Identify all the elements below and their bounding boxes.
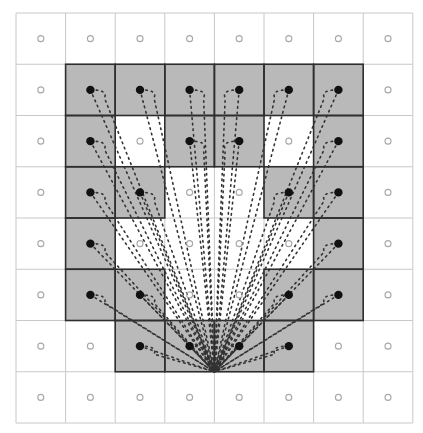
active-dot-icon [86,86,94,94]
active-dot-icon [334,86,342,94]
active-dot-icon [334,291,342,299]
active-dot-icon [86,137,94,145]
active-dot-icon [86,239,94,247]
inactive-dot-icon [187,394,193,400]
inactive-dot-icon [385,189,391,195]
inactive-dot-icon [385,292,391,298]
inactive-dot-icon [385,241,391,247]
active-dot-icon [285,86,293,94]
active-dot-icon [235,86,243,94]
inactive-dot-icon [87,36,93,42]
inactive-dot-icon [137,36,143,42]
inactive-dot-icon [38,241,44,247]
inactive-dot-icon [38,87,44,93]
inactive-dot-icon [38,292,44,298]
inactive-dot-icon [187,241,193,247]
inactive-dot-icon [137,394,143,400]
active-dot-icon [185,137,193,145]
inactive-dot-icon [385,343,391,349]
inactive-dot-icon [87,394,93,400]
inactive-dot-icon [236,241,242,247]
inactive-dot-icon [335,36,341,42]
inactive-dot-icon [137,241,143,247]
active-dot-icon [136,86,144,94]
inactive-dot-icon [286,241,292,247]
inactive-dot-icon [286,138,292,144]
active-dot-icon [285,291,293,299]
active-dot-icon [86,188,94,196]
inactive-dot-icon [187,189,193,195]
active-dot-icon [136,291,144,299]
inactive-dot-icon [385,36,391,42]
active-dot-icon [334,239,342,247]
grid-diagram [0,0,423,433]
active-dot-icon [285,188,293,196]
inactive-dot-icon [385,138,391,144]
inactive-dot-icon [286,394,292,400]
inactive-dot-icon [87,343,93,349]
inactive-dot-icon [38,138,44,144]
active-dot-icon [334,137,342,145]
active-dot-icon [235,137,243,145]
inactive-dot-icon [335,343,341,349]
inactive-dot-icon [236,394,242,400]
inactive-dot-icon [236,189,242,195]
active-dot-icon [86,291,94,299]
inactive-dot-icon [335,394,341,400]
active-dot-icon [185,86,193,94]
inactive-dot-icon [137,138,143,144]
inactive-dot-icon [187,36,193,42]
active-dot-icon [136,342,144,350]
inactive-dot-icon [38,189,44,195]
active-dot-icon [185,342,193,350]
active-dot-icon [285,342,293,350]
inactive-dot-icon [38,394,44,400]
inactive-dot-icon [38,343,44,349]
inactive-dot-icon [38,36,44,42]
active-dot-icon [235,342,243,350]
inactive-dot-icon [286,36,292,42]
inactive-dot-icon [385,87,391,93]
active-dot-icon [334,188,342,196]
inactive-dot-icon [385,394,391,400]
inactive-dot-icon [236,36,242,42]
active-dot-icon [136,188,144,196]
